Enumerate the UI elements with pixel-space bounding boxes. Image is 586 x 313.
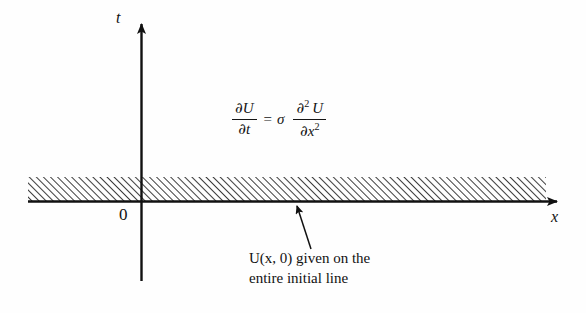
pde-diagram-figure: t x 0 ∂U ∂t = σ ∂2U ∂x2 U(x, 0) given on… [0, 0, 586, 313]
initial-condition-annotation: U(x, 0) given on the entire initial line [249, 249, 370, 289]
rhs-denominator-variable: x [308, 123, 315, 139]
lhs-numerator-variable: U [243, 100, 254, 116]
partial-symbol: ∂ [238, 120, 246, 138]
origin-label: 0 [119, 206, 128, 223]
annotation-leader-arrow [297, 206, 311, 249]
lhs-denominator-variable: t [246, 121, 250, 137]
partial-symbol: ∂ [300, 122, 308, 140]
equals-sign: = [264, 111, 272, 128]
hatched-initial-band [28, 177, 546, 201]
partial-symbol: ∂ [235, 99, 243, 117]
annotation-line-1: U(x, 0) given on the [249, 249, 370, 269]
equation-lhs-numerator: ∂U [232, 100, 257, 118]
equation-lhs-denominator: ∂t [235, 121, 253, 139]
equation-rhs-denominator: ∂x2 [297, 121, 323, 141]
heat-equation: ∂U ∂t = σ ∂2U ∂x2 [232, 98, 326, 140]
equation-rhs-numerator: ∂2U [293, 98, 326, 118]
rhs-denominator-exponent: 2 [315, 121, 320, 132]
rhs-numerator-exponent: 2 [304, 98, 309, 109]
fraction-bar [293, 119, 326, 120]
equation-rhs-fraction: ∂2U ∂x2 [293, 98, 326, 140]
annotation-line-2: entire initial line [249, 269, 370, 289]
x-axis-label: x [551, 209, 558, 225]
t-axis-label: t [116, 10, 120, 26]
sigma-coefficient: σ [277, 111, 284, 128]
rhs-numerator-variable: U [312, 100, 323, 116]
equation-lhs-fraction: ∂U ∂t [232, 100, 257, 138]
